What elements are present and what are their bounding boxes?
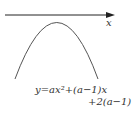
x-axis-label: x [106, 17, 112, 28]
equation-line-2: +2(a−1) [88, 96, 131, 107]
equation-line-1: y=ax²+(a−1)x [35, 84, 107, 95]
parabola-curve [15, 23, 98, 80]
